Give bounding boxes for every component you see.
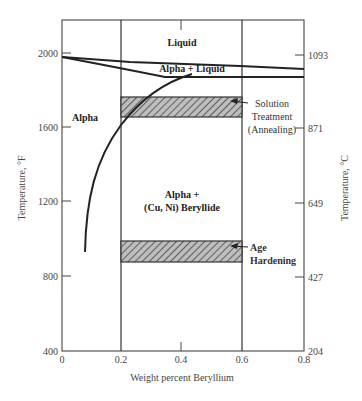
age-hardening-band	[121, 241, 242, 262]
y-tick-1200: 1200	[38, 196, 58, 207]
x-tick-0.8: 0.8	[298, 354, 311, 365]
region-liquid: Liquid	[168, 37, 197, 48]
y-tick-427: 427	[308, 272, 323, 283]
y-axis-title-right: Temperature, °C	[339, 155, 350, 221]
y-tick-1093: 1093	[308, 50, 328, 61]
x-axis-title: Weight percent Beryllium	[130, 372, 234, 383]
x-tick-0: 0	[60, 354, 65, 365]
y-tick-800: 800	[43, 271, 58, 282]
y-tick-1600: 1600	[38, 122, 58, 133]
y-axis-title-left: Temperature, °F	[16, 155, 27, 220]
region-alpha-beryllide-1: Alpha +	[165, 189, 200, 200]
annotation-age-2: Hardening	[250, 255, 296, 266]
annotation-solution-3: (Annealing)	[248, 124, 296, 136]
annotation-solution-2: Treatment	[252, 111, 293, 122]
solution-treatment-band	[121, 97, 242, 117]
x-tick-0.2: 0.2	[115, 354, 128, 365]
y-tick-2000: 2000	[38, 48, 58, 59]
region-alpha-liquid: Alpha + Liquid	[159, 63, 225, 74]
left-ticks	[62, 53, 71, 276]
y-tick-400: 400	[43, 346, 58, 357]
region-alpha-beryllide-2: (Cu, Ni) Beryllide	[144, 202, 220, 214]
region-alpha: Alpha	[72, 112, 98, 123]
annotation-solution-1: Solution	[255, 98, 289, 109]
y-tick-204: 204	[308, 346, 323, 357]
y-tick-649: 649	[308, 198, 323, 209]
right-ticks	[295, 55, 304, 277]
x-tick-0.6: 0.6	[236, 354, 249, 365]
y-tick-871: 871	[308, 123, 323, 134]
x-tick-0.4: 0.4	[175, 354, 188, 365]
annotation-age-1: Age	[250, 242, 267, 253]
phase-diagram: 2000 1600 1200 800 400 1093 871 649 427 …	[0, 0, 362, 401]
